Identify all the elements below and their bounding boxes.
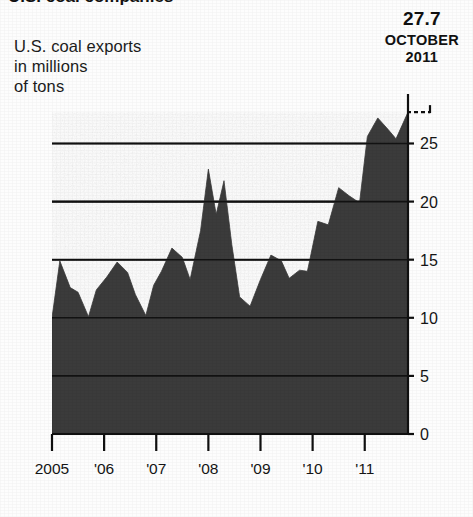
y-tick-label-10: 10 xyxy=(420,310,438,327)
x-tick-label-'08: '08 xyxy=(198,460,218,477)
x-tick-label-'11: '11 xyxy=(355,460,374,477)
x-tick-label-'10: '10 xyxy=(303,460,324,477)
y-tick-label-15: 15 xyxy=(420,252,438,269)
x-tick-label-'07: '07 xyxy=(146,460,166,477)
plot-layer: 05101520252005'06'07'08'09'10'11 xyxy=(35,94,438,477)
x-tick-label-'09: '09 xyxy=(250,460,270,477)
x-tick-label-'06: '06 xyxy=(94,460,114,477)
y-tick-label-25: 25 xyxy=(420,135,438,152)
chart-figure: U.S. coal companies U.S. coal exports in… xyxy=(0,0,473,517)
area-chart: 05101520252005'06'07'08'09'10'11 xyxy=(0,0,473,517)
x-tick-label-2005: 2005 xyxy=(35,460,69,477)
y-tick-label-5: 5 xyxy=(420,368,429,385)
area-series-coal-exports xyxy=(52,112,408,434)
y-tick-label-0: 0 xyxy=(420,426,429,443)
y-tick-label-20: 20 xyxy=(420,194,438,211)
